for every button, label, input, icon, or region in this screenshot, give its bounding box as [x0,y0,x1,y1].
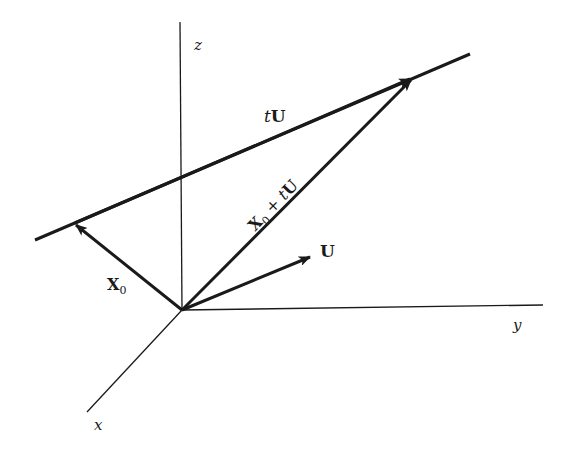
tU-arrow [75,79,410,223]
tU-label: tU [264,106,286,126]
X0-plus-tU-arrow [182,80,411,310]
y-axis-label: y [512,316,522,334]
z-axis-label: z [193,36,202,54]
X0-plus-tU-label: X0​ + tU [244,176,304,237]
vector-line-diagram: z y x tU X0 U X0​ + tU [0,0,567,451]
X0-label: X0 [107,275,126,297]
z-axis [180,22,182,310]
U-arrow [182,257,310,310]
y-axis [182,305,543,310]
x-axis-label: x [94,416,103,434]
X0-arrow [76,225,182,310]
x-axis [87,310,182,412]
U-label: U [320,241,335,261]
